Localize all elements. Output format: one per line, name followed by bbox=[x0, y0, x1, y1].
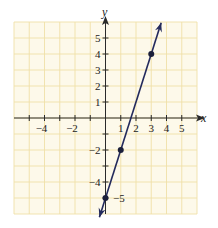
x-axis-label: x bbox=[200, 111, 207, 125]
y-tick-label: −2 bbox=[89, 144, 101, 156]
y-tick-label: 3 bbox=[95, 64, 101, 76]
y-tick-label: −4 bbox=[89, 176, 101, 188]
y-intercept-label: −5 bbox=[113, 192, 125, 204]
y-tick-label: 5 bbox=[95, 32, 101, 44]
y-tick-label: 4 bbox=[95, 48, 101, 60]
x-tick-label: −4 bbox=[36, 122, 48, 134]
x-tick-label: 1 bbox=[118, 122, 124, 134]
data-point bbox=[148, 51, 154, 57]
x-tick-label: 3 bbox=[149, 122, 155, 134]
x-tick-label: −2 bbox=[66, 122, 78, 134]
y-axis-label: y bbox=[101, 5, 108, 19]
y-tick-label: 2 bbox=[95, 80, 101, 92]
x-tick-label: 2 bbox=[133, 122, 139, 134]
data-point bbox=[118, 147, 124, 153]
y-tick-label: 1 bbox=[95, 96, 101, 108]
coordinate-plane: −4−21234554321−2−4 x y −5 bbox=[0, 0, 218, 228]
x-tick-label: 4 bbox=[164, 122, 170, 134]
x-tick-label: 5 bbox=[179, 122, 185, 134]
data-point bbox=[103, 195, 109, 201]
